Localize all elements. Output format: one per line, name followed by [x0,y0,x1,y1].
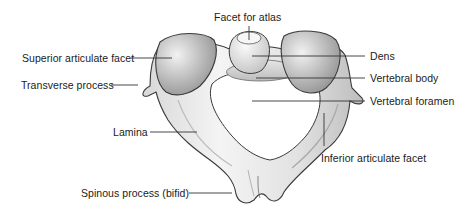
label-lamina: Lamina [113,126,148,138]
label-vertebral-body: Vertebral body [370,72,438,84]
vertebra-illustration [0,0,472,221]
vertebra-diagram: Facet for atlas Superior articulate face… [0,0,472,221]
label-superior-articulate-facet: Superior articulate facet [22,52,134,64]
label-inferior-articulate-facet: Inferior articulate facet [321,152,426,164]
label-spinous-process: Spinous process (bifid) [81,187,189,199]
label-vertebral-foramen: Vertebral foramen [370,95,454,107]
label-facet-for-atlas: Facet for atlas [214,11,281,23]
label-dens: Dens [370,50,395,62]
label-transverse-process: Transverse process [21,79,114,91]
